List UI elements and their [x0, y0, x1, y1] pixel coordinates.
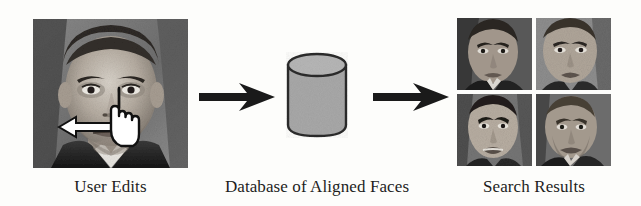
flow-arrow-right-icon-2	[373, 82, 449, 112]
database-cylinder-icon	[286, 52, 348, 138]
search-results-grid	[457, 18, 611, 166]
caption-user-edits: User Edits	[33, 176, 188, 198]
caption-database-of-aligned-faces: Database of Aligned Faces	[197, 176, 437, 198]
result-thumbnail-1[interactable]	[457, 18, 532, 90]
caption-search-results: Search Results	[457, 176, 611, 198]
flow-arrow-right-icon-1	[199, 82, 275, 112]
result-thumbnail-3[interactable]	[457, 94, 532, 166]
result-thumbnail-4[interactable]	[536, 94, 611, 166]
pointing-hand-cursor-icon	[105, 86, 143, 150]
result-thumbnail-2[interactable]	[536, 18, 611, 90]
pipeline-figure: User Edits Database of Aligned Faces Sea…	[0, 0, 641, 206]
